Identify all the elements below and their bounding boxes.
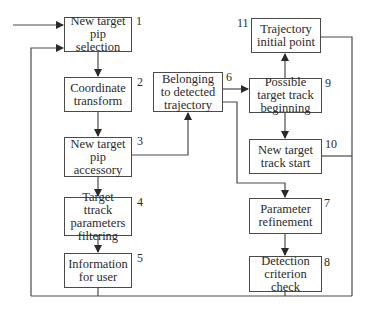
node-target-track-parameters-filtering: Target ttrack parameters filtering xyxy=(64,197,132,236)
node-label: Target ttrack parameters filtering xyxy=(67,191,129,243)
node-label: Belonging to detected trajectory xyxy=(156,73,220,112)
node-belonging-to-detected-trajectory: Belonging to detected trajectory xyxy=(153,72,223,112)
node-number: 9 xyxy=(325,77,331,89)
node-label: New target pip selection xyxy=(67,15,129,54)
node-number: 6 xyxy=(226,71,232,83)
node-label: New target pip accessory xyxy=(67,138,129,177)
node-label: Parameter refinement xyxy=(252,203,319,229)
node-parameter-refinement: Parameter refinement xyxy=(249,198,322,234)
node-number: 7 xyxy=(324,197,330,209)
node-label: Possible target track beginning xyxy=(252,76,319,115)
node-label: New target track start xyxy=(252,144,319,170)
node-possible-target-track-beginning: Possible target track beginning xyxy=(249,78,322,113)
node-information-for-user: Information for user xyxy=(64,253,132,288)
node-number: 11 xyxy=(237,17,249,29)
node-label: Coordinate transform xyxy=(67,82,129,108)
node-number: 8 xyxy=(324,256,330,268)
node-number: 5 xyxy=(137,252,143,264)
node-new-target-track-start: New target track start xyxy=(249,139,322,174)
node-number: 1 xyxy=(136,15,142,27)
node-detection-criterion-check: Detection criterion check xyxy=(249,256,322,292)
node-number: 4 xyxy=(137,196,143,208)
node-number: 10 xyxy=(325,138,337,150)
node-number: 3 xyxy=(137,135,143,147)
node-label: Detection criterion check xyxy=(252,255,319,294)
node-label: Information for user xyxy=(67,258,129,284)
node-new-target-pip-selection: New target pip selection xyxy=(64,17,132,52)
node-coordinate-transform: Coordinate transform xyxy=(64,77,132,112)
node-label: Trajectory initial point xyxy=(254,23,318,49)
node-new-target-pip-accessory: New target pip accessory xyxy=(64,137,132,177)
node-trajectory-initial-point: Trajectory initial point xyxy=(251,18,321,53)
node-number: 2 xyxy=(137,76,143,88)
